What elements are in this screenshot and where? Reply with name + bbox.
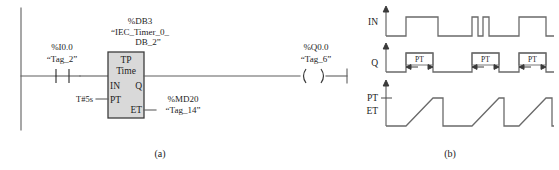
pt-marker-1-label: PT bbox=[415, 55, 424, 64]
signal-label-et: ET bbox=[366, 106, 378, 116]
pt-marker-2-label: PT bbox=[481, 55, 490, 64]
block-pin-pt: PT bbox=[110, 95, 121, 105]
figure-root: %I0.0 “Tag_2” %DB3 “IEC_Timer_0_ DB_2” T… bbox=[0, 0, 559, 170]
axis-et-arrowhead bbox=[383, 80, 389, 86]
et-tag-label: “Tag_14” bbox=[166, 105, 201, 115]
contact-address-label: %I0.0 bbox=[51, 42, 73, 52]
coil-tag-label: “Tag_6” bbox=[301, 54, 331, 64]
coil-right-paren bbox=[321, 69, 324, 83]
figure-canvas: %I0.0 “Tag_2” %DB3 “IEC_Timer_0_ DB_2” T… bbox=[0, 0, 559, 170]
caption-b: (b) bbox=[444, 148, 456, 160]
axis-in-arrowhead bbox=[383, 6, 389, 12]
coil-address-label: %Q0.0 bbox=[303, 42, 329, 52]
block-title: TP bbox=[120, 55, 131, 65]
block-pin-q: Q bbox=[135, 81, 142, 91]
coil-tag6[interactable] bbox=[304, 69, 324, 83]
et-address-label: %MD20 bbox=[168, 94, 199, 104]
axis-et bbox=[381, 80, 392, 126]
pt-constant-label[interactable]: T#5s bbox=[76, 94, 93, 104]
caption-a: (a) bbox=[154, 148, 165, 160]
block-pin-in: IN bbox=[110, 81, 120, 91]
coil-left-paren bbox=[304, 69, 307, 83]
block-pin-et: ET bbox=[130, 105, 142, 115]
block-subtitle: Time bbox=[116, 66, 136, 76]
pt-marker-2: PT bbox=[472, 53, 499, 69]
pt-marker-1: PT bbox=[406, 53, 433, 69]
waveform-in bbox=[386, 17, 554, 36]
axis-q-arrowhead bbox=[383, 43, 389, 49]
db-name-line2: DB_2” bbox=[135, 37, 161, 47]
pt-marker-3-label: PT bbox=[528, 55, 537, 64]
db-name-line1: “IEC_Timer_0_ bbox=[111, 27, 170, 37]
pt-marker-3: PT bbox=[519, 53, 546, 69]
signal-label-pt: PT bbox=[367, 93, 378, 103]
signal-label-q: Q bbox=[371, 58, 378, 68]
waveform-et bbox=[386, 98, 554, 126]
axis-in bbox=[383, 6, 389, 36]
axis-q bbox=[383, 43, 389, 72]
signal-label-in: IN bbox=[368, 17, 378, 27]
contact-tag-label: “Tag_2” bbox=[47, 54, 77, 64]
db-address-label: %DB3 bbox=[128, 16, 153, 26]
